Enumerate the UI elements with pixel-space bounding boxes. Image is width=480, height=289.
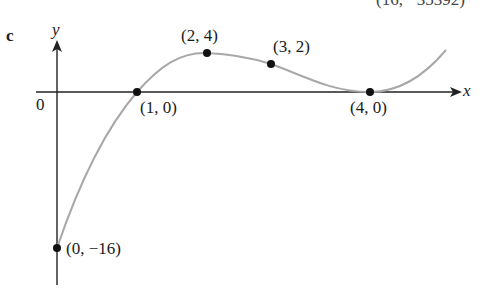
y-axis-label: y (52, 21, 60, 38)
point-label-2-4: (2, 4) (181, 27, 218, 44)
point-label-0-neg16: (0, −16) (66, 240, 121, 257)
point-label-4-0: (4, 0) (350, 99, 387, 116)
point-3-2 (267, 60, 275, 68)
top-cut-label: (16, −35392) (376, 0, 465, 8)
point-label-3-2: (3, 2) (273, 38, 310, 55)
x-axis-label: x (463, 82, 471, 99)
point-4-0 (366, 88, 374, 96)
function-curve (57, 50, 446, 248)
point-1-0 (133, 88, 141, 96)
origin-label: 0 (36, 96, 45, 113)
panel-label: c (6, 27, 14, 44)
point-0-neg16 (53, 244, 61, 252)
point-label-1-0: (1, 0) (140, 99, 177, 116)
point-2-4 (203, 49, 211, 57)
